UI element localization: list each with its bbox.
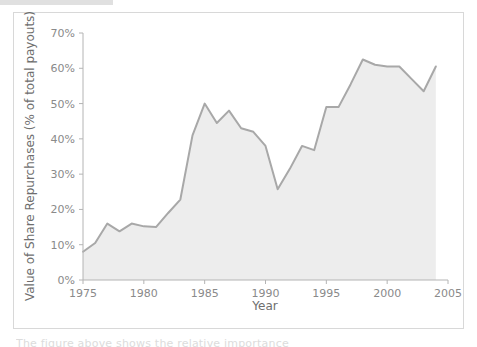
x-axis-title: Year [251,299,277,313]
x-axis-tick-label: 2000 [373,287,401,300]
y-axis-tick-label: 60% [51,62,75,75]
page-caption-fragment: The figure above shows the relative impo… [16,337,456,347]
y-axis-tick-label: 20% [51,203,75,216]
plot-area [83,59,436,280]
x-axis: 1975198019851990199520002005 [69,280,462,300]
y-axis-ticks: 0%10%20%30%40%50%60%70% [51,27,83,287]
y-axis-tick-label: 70% [51,27,75,40]
x-axis-tick-label: 2005 [434,287,462,300]
y-axis-tick-label: 10% [51,239,75,252]
y-axis-tick-label: 0% [58,274,75,287]
y-axis-tick-label: 50% [51,98,75,111]
x-axis-tick-label: 1975 [69,287,97,300]
area-chart: 0%10%20%30%40%50%60%70% 1975198019851990… [0,0,477,347]
series-area-fill [83,59,436,280]
y-axis-title: Value of Share Repurchases (% of total p… [23,11,37,301]
chart-figure: 0%10%20%30%40%50%60%70% 1975198019851990… [0,0,477,347]
y-axis-tick-label: 30% [51,168,75,181]
y-axis: 0%10%20%30%40%50%60%70% [51,27,83,287]
x-axis-tick-label: 1995 [312,287,340,300]
y-axis-tick-label: 40% [51,133,75,146]
x-axis-tick-label: 1985 [191,287,219,300]
x-axis-ticks: 1975198019851990199520002005 [69,280,462,300]
x-axis-tick-label: 1980 [130,287,158,300]
